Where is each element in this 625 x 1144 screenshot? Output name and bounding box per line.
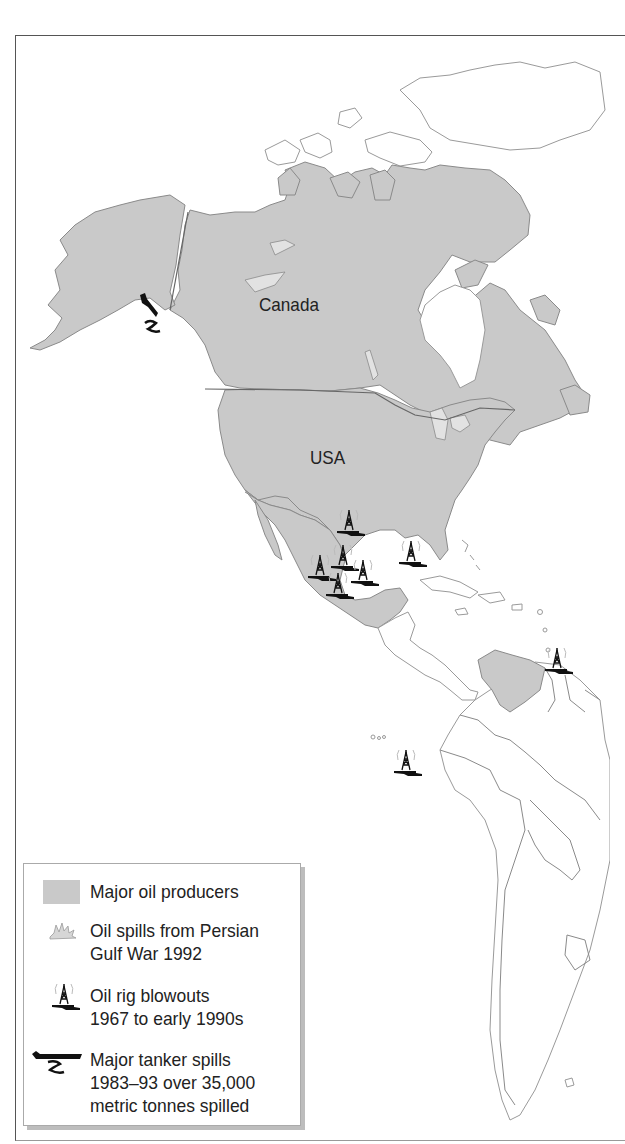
usa-territory [218,388,515,560]
map-legend: Major oil producers Oil spills from Pers… [23,863,301,1126]
south-america [440,650,610,1120]
oil-rig-blowout-icon [44,980,84,1016]
producer-swatch-icon [43,880,80,904]
legend-label: Oil rig blowouts 1967 to early 1990s [90,984,244,1030]
gulf-war-spill-icon [48,921,78,941]
legend-label: Major oil producers [90,880,239,903]
legend-label: Major tanker spills 1983–93 over 35,000 … [90,1048,255,1117]
arctic-islands-outline [265,62,605,166]
central-america [378,612,478,700]
alaska-territory [30,195,185,350]
tanker-spill-icon [30,1048,86,1078]
legend-label: Oil spills from Persian Gulf War 1992 [90,919,259,965]
label-canada: Canada [259,294,319,316]
galapagos-islands [371,735,386,740]
label-usa: USA [310,447,345,469]
